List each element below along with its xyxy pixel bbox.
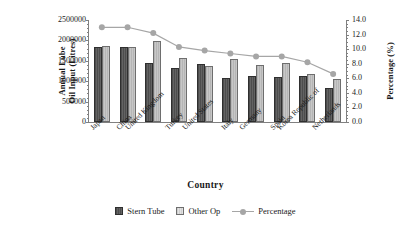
chart-container: Annual Lube Oil Input (Litres) Percentag… (0, 0, 411, 233)
bar-group (89, 20, 115, 122)
y2-minor-tick (346, 31, 348, 32)
bar-other-op[interactable] (230, 59, 238, 122)
y2-minor-tick (346, 107, 348, 108)
y2-minor-tick (346, 71, 348, 72)
plot-area (89, 20, 346, 122)
y2-minor-tick (346, 118, 348, 119)
bar-group (115, 20, 141, 122)
y2-minor-tick (346, 122, 348, 123)
bar-other-op[interactable] (128, 47, 136, 122)
y2-tick-label: 2.0 (352, 103, 362, 111)
y2-minor-tick (346, 64, 348, 65)
y-minor-tick (87, 122, 89, 123)
y2-minor-tick (346, 93, 348, 94)
legend-swatch-percentage-icon (232, 207, 254, 215)
legend-label-stern-tube: Stern Tube (127, 206, 164, 216)
y2-minor-tick (346, 42, 348, 43)
y2-minor-tick (346, 20, 348, 21)
bar-stern-tube[interactable] (120, 47, 128, 122)
secondary-y-axis-tick-labels: 0.02.04.06.08.010.012.014.0 (352, 16, 378, 126)
y2-tick-label: 10.0 (352, 45, 366, 53)
legend-item-stern-tube[interactable]: Stern Tube (115, 206, 164, 216)
y2-minor-tick (346, 78, 348, 79)
y2-minor-tick (346, 100, 348, 101)
y2-minor-tick (346, 60, 348, 61)
y2-minor-tick (346, 46, 348, 47)
y2-tick-label: 8.0 (352, 60, 362, 68)
y2-minor-tick (346, 67, 348, 68)
y2-minor-tick (346, 27, 348, 28)
bar-other-op[interactable] (153, 41, 161, 122)
x-axis-title: Country (0, 180, 411, 190)
legend-item-percentage[interactable]: Percentage (232, 206, 295, 216)
y2-minor-tick (346, 24, 348, 25)
y2-minor-tick (346, 49, 348, 50)
bar-group (269, 20, 295, 122)
bar-other-op[interactable] (102, 46, 110, 122)
y2-minor-tick (346, 82, 348, 83)
legend-swatch-other-op-icon (176, 207, 184, 215)
bar-groups (89, 20, 346, 122)
x-axis-category-labels: JapanChinaUnited KingdomTurkeyUnited Sta… (89, 124, 346, 180)
bar-other-op[interactable] (205, 66, 213, 122)
legend-label-other-op: Other Op (188, 206, 220, 216)
y2-minor-tick (346, 89, 348, 90)
y2-minor-tick (346, 104, 348, 105)
chart-legend: Stern Tube Other Op Percentage (0, 206, 411, 216)
y-axis-tick-labels: 05000001000000150000020000002500000 (40, 16, 86, 126)
y2-minor-tick (346, 97, 348, 98)
legend-label-percentage: Percentage (258, 206, 295, 216)
y2-minor-tick (346, 56, 348, 57)
y2-tick-label: 0.0 (352, 118, 362, 126)
y2-minor-tick (346, 86, 348, 87)
legend-swatch-stern-tube-icon (115, 207, 123, 215)
y2-minor-tick (346, 35, 348, 36)
y2-minor-tick (346, 38, 348, 39)
y-tick-label: 1500000 (58, 57, 86, 65)
y2-tick-label: 14.0 (352, 16, 366, 24)
y2-minor-tick (346, 53, 348, 54)
y2-tick-label: 12.0 (352, 31, 366, 39)
y2-tick-label: 4.0 (352, 89, 362, 97)
legend-item-other-op[interactable]: Other Op (176, 206, 220, 216)
y-tick-label: 500000 (62, 98, 86, 106)
y-tick-label: 2000000 (58, 36, 86, 44)
bar-stern-tube[interactable] (94, 47, 102, 122)
bar-group (218, 20, 244, 122)
y-tick-label: 2500000 (58, 16, 86, 24)
y2-minor-tick (346, 111, 348, 112)
bar-group (166, 20, 192, 122)
y-tick-label: 1000000 (58, 77, 86, 85)
y2-tick-label: 6.0 (352, 74, 362, 82)
y2-minor-tick (346, 115, 348, 116)
y2-minor-tick (346, 75, 348, 76)
